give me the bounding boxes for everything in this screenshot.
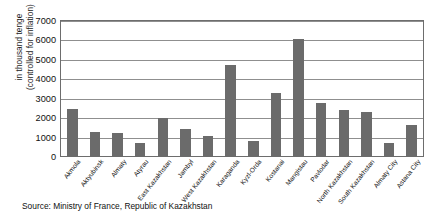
x-axis-tick-label: Karaganda: [215, 158, 241, 188]
bar: [203, 136, 213, 157]
bar: [248, 141, 258, 157]
bar: [112, 133, 122, 157]
bar: [339, 110, 349, 157]
bar-chart-figure: in thousand tenge (controlled for inflat…: [0, 0, 436, 223]
x-axis-tick-label: Jambyl: [176, 158, 195, 179]
y-axis-tick-labels: 70006000500040003000200010000: [18, 20, 56, 157]
bar: [180, 129, 190, 157]
x-axis-tick-label: Kostanai: [264, 158, 286, 183]
source-note: Source: Ministry of France, Republic of …: [22, 201, 212, 211]
y-axis-tick-label: 7000: [18, 17, 56, 26]
y-axis-tick-label: 2000: [18, 114, 56, 123]
bar: [384, 143, 394, 157]
x-axis-tick-label: Almaty: [109, 158, 127, 178]
y-axis-tick-label: 3000: [18, 94, 56, 103]
x-axis-tick-label: Pavlodar: [309, 158, 331, 183]
bar: [67, 109, 77, 157]
bar: [293, 39, 303, 158]
x-axis-tick-label: Atyrau: [132, 158, 149, 178]
y-axis-tick-label: 6000: [18, 36, 56, 45]
y-axis-tick-label: 0: [18, 153, 56, 162]
x-axis-tick-label: Astana City: [395, 158, 422, 189]
bar: [135, 143, 145, 157]
x-axis-tick-label: Kyzl-Orda: [239, 158, 263, 186]
bar: [225, 65, 235, 157]
bar: [361, 112, 371, 157]
bar-series: [61, 21, 423, 157]
x-axis-tick-label: Mangistau: [284, 158, 309, 187]
y-axis-tick-label: 4000: [18, 75, 56, 84]
x-axis-tick-label: Aktyubinsk: [79, 158, 104, 188]
bar: [316, 103, 326, 157]
bar: [406, 125, 416, 157]
y-axis-tick-label: 5000: [18, 55, 56, 64]
x-axis-tick-label: Akmola: [63, 158, 82, 180]
bar: [271, 93, 281, 157]
bar: [90, 132, 100, 157]
x-axis-tick-labels: AkmolaAktyubinskAlmatyAtyrauEast Kazakhs…: [60, 158, 436, 198]
bar: [158, 118, 168, 157]
y-axis-tick-label: 1000: [18, 133, 56, 142]
